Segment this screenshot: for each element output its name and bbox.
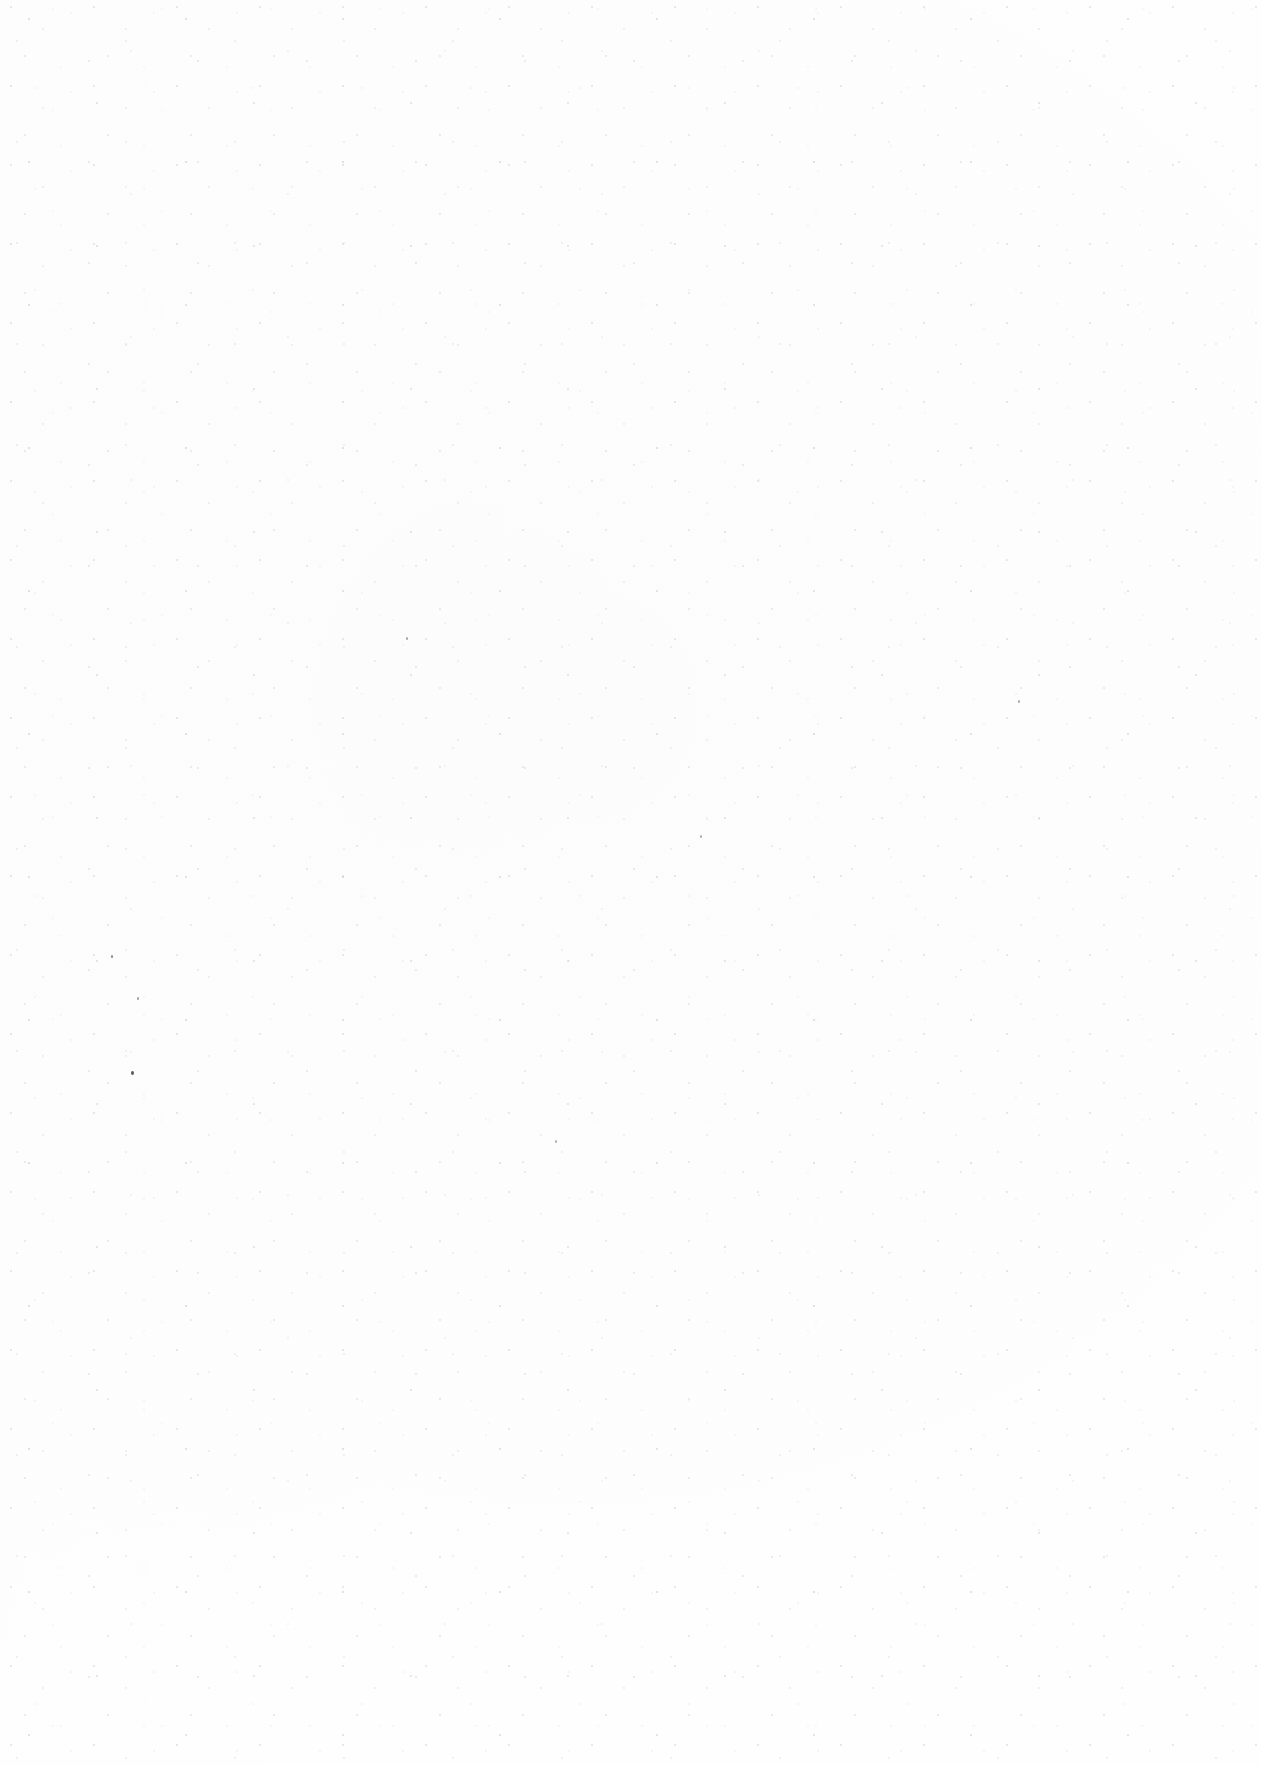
paper-surface bbox=[0, 0, 1261, 1765]
scanned-page bbox=[0, 0, 1261, 1765]
